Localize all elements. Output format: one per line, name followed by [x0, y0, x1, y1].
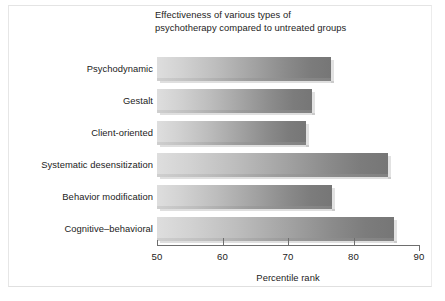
x-axis-line — [157, 245, 419, 246]
category-label: Gestalt — [123, 95, 153, 106]
bar-fill — [157, 217, 394, 238]
bar-psychodynamic[interactable] — [157, 57, 331, 82]
bar-shadow — [160, 177, 391, 179]
bar-shadow — [160, 113, 315, 115]
bar-row: Psychodynamic — [0, 56, 445, 83]
bar-row: Gestalt — [0, 88, 445, 115]
bar-behavior-modification[interactable] — [157, 185, 332, 210]
bar-fill — [157, 57, 331, 78]
x-axis-label: Percentile rank — [157, 272, 419, 283]
x-axis-tick-label: 80 — [348, 251, 359, 262]
bar-shadow-side — [332, 188, 335, 211]
x-axis-tick-label: 70 — [283, 251, 294, 262]
bar-cognitive-behavioral[interactable] — [157, 217, 394, 242]
category-label: Client-oriented — [91, 127, 153, 138]
bar-fill — [157, 153, 388, 174]
bar-gestalt[interactable] — [157, 89, 312, 114]
x-axis-tick — [223, 238, 224, 245]
x-axis-tick-label: 60 — [217, 251, 228, 262]
x-axis-tick — [157, 240, 158, 246]
bar-shadow-side — [388, 156, 391, 179]
bar-shadow-side — [306, 124, 309, 147]
bar-fill — [157, 89, 312, 110]
chart-plot-area: Effectiveness of various types of psycho… — [0, 0, 445, 301]
x-axis-tick — [288, 238, 289, 245]
category-label: Behavior modification — [62, 191, 153, 202]
x-axis-tick-label: 90 — [414, 251, 425, 262]
bar-shadow — [160, 81, 334, 83]
bar-row: Systematic desensitization — [0, 152, 445, 179]
bar-shadow — [160, 145, 309, 147]
category-label: Psychodynamic — [87, 63, 153, 74]
bar-row: Behavior modification — [0, 184, 445, 211]
bar-shadow-side — [312, 92, 315, 115]
bar-fill — [157, 121, 306, 142]
bar-shadow — [160, 209, 335, 211]
bar-row: Client-oriented — [0, 120, 445, 147]
bar-client-oriented[interactable] — [157, 121, 306, 146]
bar-shadow-side — [394, 220, 397, 243]
x-axis-tick-label: 50 — [152, 251, 163, 262]
bar-shadow — [160, 241, 397, 243]
bar-systematic-desensitization[interactable] — [157, 153, 388, 178]
bar-shadow-side — [331, 60, 334, 83]
x-axis-tick — [354, 238, 355, 245]
category-label: Cognitive–behavioral — [64, 223, 153, 234]
chart-title: Effectiveness of various types of psycho… — [155, 9, 405, 34]
category-label: Systematic desensitization — [41, 159, 153, 170]
bar-fill — [157, 185, 332, 206]
